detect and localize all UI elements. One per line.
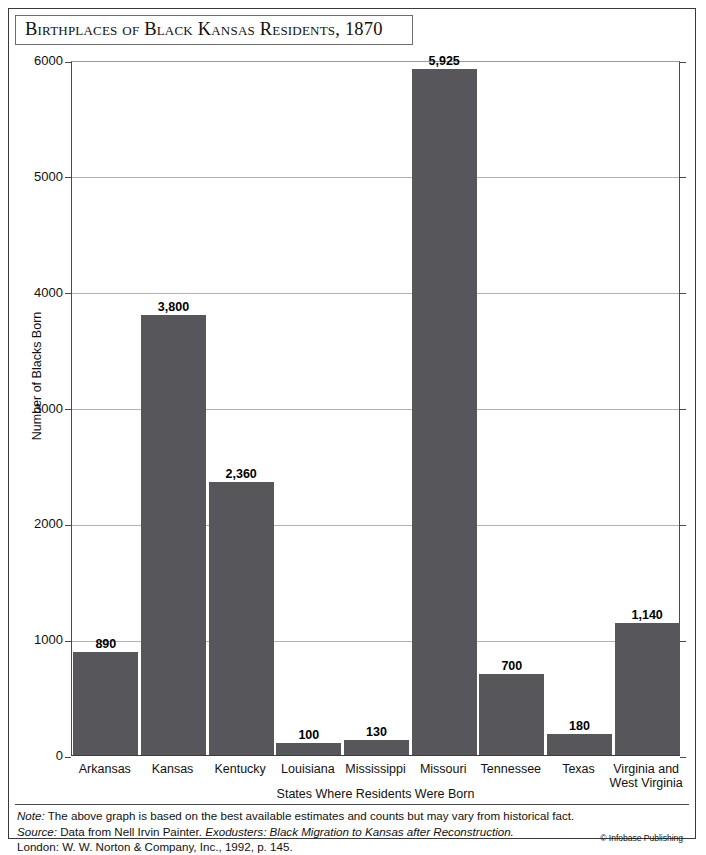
figure-frame: Birthplaces of Black Kansas Residents, 1… (8, 8, 696, 839)
source-line-1: Source: Data from Nell Irvin Painter. Ex… (17, 824, 689, 840)
note-label: Note: (17, 809, 45, 822)
y-axis-tick-label: 5000 (17, 171, 63, 183)
y-axis-tick-label: 0 (17, 750, 63, 762)
y-axis-tick (65, 177, 71, 178)
y-axis-tick (65, 409, 71, 410)
bar-value-label: 1,140 (595, 608, 700, 622)
y-axis-tick-right (680, 177, 686, 178)
chart-plot-wrapper: 0100020003000400050006000 Number of Blac… (9, 9, 697, 840)
y-axis-tick-right (680, 641, 686, 642)
footer-notes: Note: The above graph is based on the be… (17, 808, 689, 855)
y-axis-tick (65, 62, 71, 63)
bar (141, 315, 206, 755)
y-axis-tick (65, 525, 71, 526)
y-axis-tick-right (680, 757, 686, 758)
bar (344, 740, 409, 755)
bar (547, 734, 612, 755)
x-axis-category-label: Virginia andWest Virginia (591, 762, 701, 790)
bar (73, 652, 138, 755)
bar-value-label: 3,800 (121, 300, 226, 314)
footer-divider (15, 804, 689, 805)
y-axis-tick-label: 6000 (17, 55, 63, 67)
y-axis-tick-right (680, 525, 686, 526)
bar (479, 674, 544, 755)
y-axis-tick-right (680, 409, 686, 410)
bar (276, 743, 341, 755)
x-axis-category-line: West Virginia (591, 776, 701, 790)
bar (412, 69, 477, 755)
y-axis-tick (65, 757, 71, 758)
bar-value-label: 2,360 (189, 467, 294, 481)
bar-value-label: 5,925 (392, 54, 497, 68)
source-title: Exodusters: Black Migration to Kansas af… (205, 825, 514, 838)
gridline (72, 177, 679, 178)
bar (615, 623, 680, 755)
bar (209, 482, 274, 755)
source-line-2: London: W. W. Norton & Company, Inc., 19… (17, 839, 689, 855)
y-axis-tick-right (680, 62, 686, 63)
x-axis-category-line: Virginia and (591, 762, 701, 776)
gridline (72, 293, 679, 294)
y-axis-title: Number of Blacks Born (30, 286, 44, 466)
y-axis-tick-right (680, 293, 686, 294)
source-text: Data from Nell Irvin Painter. (57, 825, 205, 838)
bar-value-label: 700 (459, 659, 564, 673)
y-axis-tick (65, 293, 71, 294)
x-axis-title: States Where Residents Were Born (71, 787, 680, 801)
copyright-notice: © Infobase Publishing (600, 833, 683, 843)
y-axis-tick-label: 2000 (17, 518, 63, 530)
source-label: Source: (17, 825, 57, 838)
note-text: The above graph is based on the best ava… (45, 809, 575, 822)
plot-area: 8903,8002,3601001305,9257001801,140 (71, 61, 680, 756)
note-line: Note: The above graph is based on the be… (17, 808, 689, 824)
